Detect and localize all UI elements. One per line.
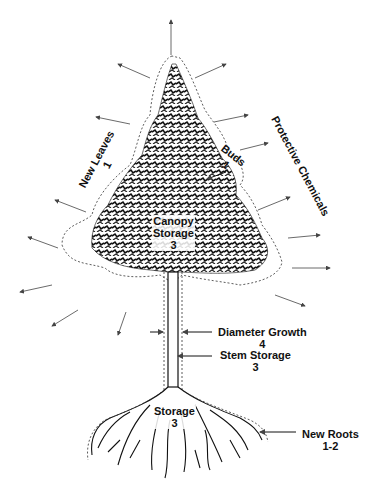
arrow-w4 [20,285,52,292]
arrow-e2 [240,143,268,150]
root-storage-label: Storage 3 [153,405,196,429]
arrow-sw2 [118,312,126,335]
canopy-storage-label: Canopy Storage 3 [152,215,195,251]
new-roots-text: New Roots [302,428,359,440]
arrow-se [275,295,305,306]
root-storage-text: Storage [154,405,195,417]
arrow-w1 [96,117,130,124]
arrow-w3 [28,237,58,248]
new-roots-priority: 1-2 [302,440,359,452]
stem-storage-priority: 3 [220,361,291,373]
arrow-e1 [214,115,248,122]
arrow-ne [195,64,226,78]
arrow-sw1 [52,310,78,326]
trunk [168,272,178,387]
arrow-e3 [258,197,290,210]
diameter-growth-label: Diameter Growth 4 [218,326,307,350]
canopy-storage-priority: 3 [153,239,194,251]
arrow-nw [118,64,150,78]
stem-storage-label: Stem Storage 3 [220,349,291,373]
diameter-growth-text: Diameter Growth [218,326,307,338]
new-roots-label: New Roots 1-2 [302,428,359,452]
roots [92,387,262,478]
arrow-e4 [288,235,320,238]
arrow-w2 [55,200,86,212]
stem-storage-text: Stem Storage [220,349,291,361]
root-storage-priority: 3 [154,417,195,429]
canopy-text: Canopy [153,215,194,227]
storage-text: Storage [153,227,194,239]
